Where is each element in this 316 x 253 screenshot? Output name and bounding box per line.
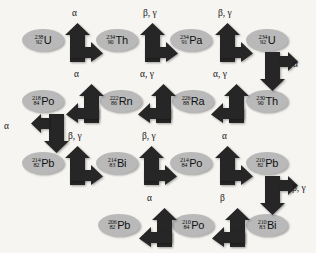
- element-symbol: Pb: [41, 158, 54, 169]
- decay-label: α: [74, 69, 79, 79]
- decay-arrow-up-right: [214, 145, 254, 185]
- atomic-number: 82: [33, 163, 39, 168]
- element-symbol: Pa: [189, 35, 202, 46]
- atomic-number: 90: [258, 101, 264, 106]
- nuclide-pb214: 21482Pb: [22, 152, 64, 174]
- atomic-number: 84: [183, 225, 189, 230]
- nuclide-numbers: 21082: [256, 158, 265, 168]
- nuclide-pb206: 20682Pb: [98, 214, 140, 236]
- atomic-number: 92: [36, 40, 42, 45]
- atomic-number: 88: [183, 101, 189, 106]
- decay-label: β: [220, 193, 225, 203]
- atomic-number: 83: [109, 163, 115, 168]
- nuclide-po218: 21884Po: [22, 90, 64, 112]
- element-symbol: Po: [191, 220, 204, 231]
- nuclide-u238: 23892U: [22, 29, 64, 51]
- element-symbol: Po: [41, 96, 54, 107]
- decay-arrow-up-right: [214, 22, 254, 62]
- atomic-number: 90: [108, 40, 114, 45]
- element-symbol: U: [268, 35, 276, 46]
- element-symbol: Pb: [117, 220, 130, 231]
- decay-label: β, γ: [143, 8, 157, 18]
- decay-arrow-up-right: [64, 145, 104, 185]
- nuclide-numbers: 21482: [32, 158, 41, 168]
- decay-chain-diagram: 23892U23490Th23491Pa23492U23090Th22688Ra…: [0, 0, 316, 253]
- nuclide-po210: 21084Po: [172, 214, 214, 236]
- nuclide-bi210: 21083Bi: [246, 214, 288, 236]
- atomic-number: 84: [33, 101, 39, 106]
- element-symbol: Bi: [267, 220, 276, 231]
- element-symbol: Rn: [119, 96, 132, 107]
- atomic-number: 91: [181, 40, 187, 45]
- element-symbol: Th: [265, 96, 277, 107]
- nuclide-th230: 23090Th: [246, 90, 288, 112]
- nuclide-numbers: 21483: [108, 158, 117, 168]
- element-symbol: U: [44, 35, 52, 46]
- decay-label: α: [222, 131, 227, 141]
- decay-label: α: [72, 8, 77, 18]
- atomic-number: 84: [181, 163, 187, 168]
- nuclide-numbers: 23090: [256, 96, 265, 106]
- nuclide-numbers: 23490: [106, 35, 115, 45]
- decay-arrow-up-right: [138, 145, 178, 185]
- decay-label: α: [147, 193, 152, 203]
- nuclide-numbers: 22286: [110, 96, 119, 106]
- atomic-number: 92: [260, 40, 266, 45]
- element-symbol: Pb: [265, 158, 278, 169]
- atomic-number: 83: [259, 225, 265, 230]
- nuclide-numbers: 21484: [180, 158, 189, 168]
- decay-arrow-up-right: [64, 22, 104, 62]
- decay-arrow-down-right: [259, 52, 299, 92]
- decay-label: β, γ: [292, 183, 306, 193]
- atomic-number: 82: [109, 225, 115, 230]
- decay-arrow-down-right: [259, 176, 299, 216]
- element-symbol: Th: [115, 35, 127, 46]
- decay-label: α, γ: [213, 69, 227, 79]
- decay-label: α, γ: [140, 69, 154, 79]
- nuclide-rn222: 22286Rn: [100, 90, 142, 112]
- nuclide-numbers: 21083: [258, 220, 267, 230]
- decay-arrow-up-left: [137, 83, 177, 123]
- element-symbol: Ra: [191, 96, 204, 107]
- element-symbol: Po: [189, 158, 202, 169]
- decay-label: α: [4, 121, 9, 131]
- nuclide-ra226: 22688Ra: [172, 90, 214, 112]
- decay-label: α: [293, 59, 298, 69]
- decay-arrow-up-left: [138, 207, 178, 247]
- decay-arrow-up-right: [139, 22, 179, 62]
- nuclide-numbers: 22688: [182, 96, 191, 106]
- nuclide-numbers: 23492: [259, 35, 268, 45]
- decay-arrow-up-left: [65, 83, 105, 123]
- nuclide-numbers: 21884: [32, 96, 41, 106]
- decay-label: β, γ: [218, 8, 232, 18]
- nuclide-numbers: 23892: [35, 35, 44, 45]
- decay-label: β, γ: [142, 131, 156, 141]
- element-symbol: Bi: [117, 158, 126, 169]
- nuclide-numbers: 20682: [108, 220, 117, 230]
- decay-arrow-up-left: [210, 83, 250, 123]
- atomic-number: 86: [111, 101, 117, 106]
- decay-label: β, γ: [68, 131, 82, 141]
- atomic-number: 82: [257, 163, 263, 168]
- nuclide-numbers: 23491: [180, 35, 189, 45]
- nuclide-numbers: 21084: [182, 220, 191, 230]
- decay-arrow-up-left: [211, 207, 251, 247]
